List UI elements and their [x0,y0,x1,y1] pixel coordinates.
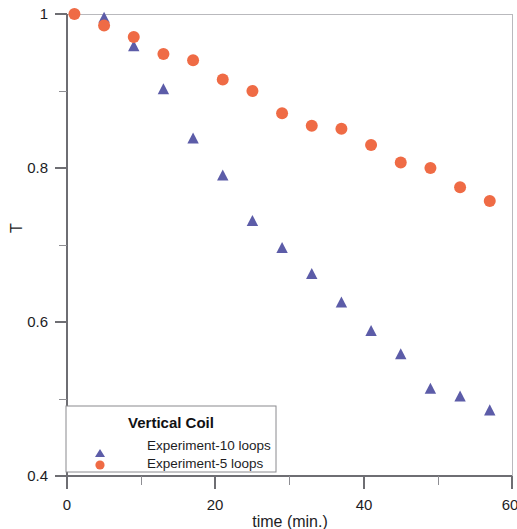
data-point-triangle [276,242,287,253]
legend-circle-icon [95,460,104,469]
series-1-markers [98,12,495,416]
data-series-layer [68,8,495,415]
legend: Vertical Coil Experiment-10 loops Experi… [66,406,276,472]
data-point-circle [306,120,318,132]
y-tick-label-0_6: 0.6 [27,313,48,330]
x-axis-title: time (min.) [252,513,328,529]
data-point-circle [424,162,436,174]
x-axis-ticks [67,476,512,489]
data-point-circle [68,8,80,20]
data-point-triangle [158,83,169,94]
legend-title: Vertical Coil [128,414,214,431]
series-2-markers [68,8,495,207]
data-point-circle [484,195,496,207]
data-point-circle [246,85,258,97]
scatter-plot: 1 0.8 0.6 0.4 0 20 40 60 time (min.) T V… [0,0,517,529]
data-point-triangle [187,133,198,144]
x-tick-label-0: 0 [63,496,71,513]
y-axis-ticks [55,14,67,476]
data-point-circle [454,181,466,193]
data-point-circle [157,48,169,60]
x-tick-label-60: 60 [502,496,517,513]
data-point-triangle [425,383,436,394]
y-tick-label-1: 1 [40,5,48,22]
legend-label-0: Experiment-10 loops [147,438,271,453]
data-point-circle [217,73,229,85]
data-point-circle [128,31,140,43]
data-point-circle [187,54,199,66]
x-tick-label-20: 20 [207,496,224,513]
data-point-triangle [217,170,228,181]
legend-label-1: Experiment-5 loops [147,456,264,471]
data-point-circle [365,139,377,151]
data-point-triangle [484,404,495,415]
data-point-triangle [306,268,317,279]
data-point-triangle [454,390,465,401]
data-point-triangle [395,348,406,359]
data-point-circle [335,123,347,135]
data-point-circle [276,107,288,119]
data-point-triangle [247,215,258,226]
y-tick-label-0_4: 0.4 [27,467,48,484]
data-point-circle [98,20,110,32]
data-point-circle [395,157,407,169]
x-tick-label-40: 40 [356,496,373,513]
data-point-triangle [365,325,376,336]
y-axis-title: T [8,223,25,233]
data-point-triangle [336,297,347,308]
chart-container: 1 0.8 0.6 0.4 0 20 40 60 time (min.) T V… [0,0,517,529]
y-tick-label-0_8: 0.8 [27,159,48,176]
